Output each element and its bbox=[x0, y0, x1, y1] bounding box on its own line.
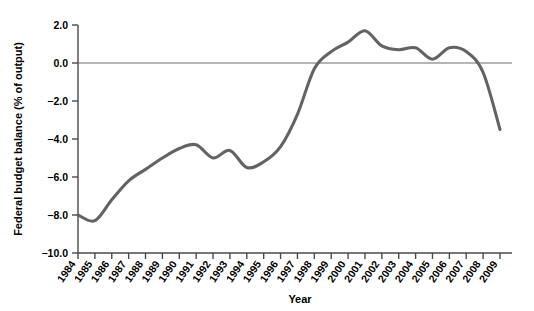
y-tick-label: −8.0 bbox=[47, 209, 68, 221]
y-tick-label: 0.0 bbox=[53, 57, 68, 69]
chart-container: 2.00.0−2.0−4.0−6.0−8.0−10.0 198419851986… bbox=[0, 0, 534, 311]
y-tick-label: −10.0 bbox=[41, 247, 68, 259]
line-chart: 2.00.0−2.0−4.0−6.0−8.0−10.0 198419851986… bbox=[0, 0, 534, 311]
y-tick-label: 2.0 bbox=[53, 19, 68, 31]
y-tick-label: −6.0 bbox=[47, 171, 68, 183]
y-tick-label: −2.0 bbox=[47, 95, 68, 107]
x-axis-title: Year bbox=[288, 293, 312, 305]
y-axis-title: Federal budget balance (% of output) bbox=[12, 42, 24, 236]
y-tick-label: −4.0 bbox=[47, 133, 68, 145]
